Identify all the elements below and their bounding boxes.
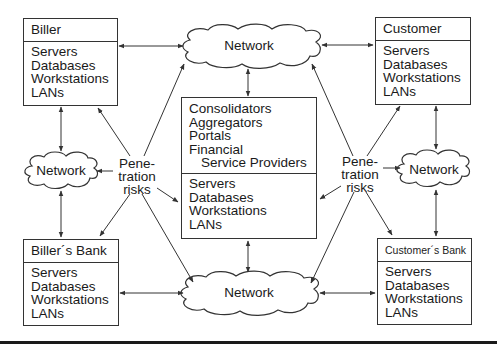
risk-right-to-customer xyxy=(367,106,400,156)
billers-bank-item: Databases xyxy=(31,280,118,294)
intermediaries-box: Consolidators Aggregators Portals Financ… xyxy=(181,97,317,239)
network-left-label: Network xyxy=(30,163,92,178)
biller-item: Servers xyxy=(31,45,117,59)
biller-item: Databases xyxy=(31,59,117,73)
risk-right-to-network-bottom xyxy=(311,192,354,283)
customers-bank-item: Servers xyxy=(385,265,471,279)
customers-bank-items: Servers Databases Workstations LANs xyxy=(378,262,471,319)
biller-item: LANs xyxy=(31,86,117,100)
network-bottom-label: Network xyxy=(218,285,280,300)
customer-item: LANs xyxy=(383,85,470,99)
network-top-label: Network xyxy=(218,38,280,53)
billers-bank-item: Workstations xyxy=(31,293,118,307)
customers-bank-box: Customer´s Bank Servers Databases Workst… xyxy=(377,238,472,325)
risk-left-to-billers-bank xyxy=(100,194,130,236)
role-item: Portals xyxy=(189,129,316,143)
biller-items: Servers Databases Workstations LANs xyxy=(24,42,117,99)
biller-title: Biller xyxy=(24,19,117,42)
intermediaries-roles: Consolidators Aggregators Portals Financ… xyxy=(182,98,316,174)
billers-bank-title: Biller´s Bank xyxy=(24,240,118,263)
customers-bank-item: Workstations xyxy=(385,292,471,306)
intermediaries-items: Servers Databases Workstations LANs xyxy=(182,174,316,231)
billers-bank-box: Biller´s Bank Servers Databases Workstat… xyxy=(23,239,119,326)
customer-item: Databases xyxy=(383,58,470,72)
network-right-label: Network xyxy=(403,162,465,177)
biller-item: Workstations xyxy=(31,72,117,86)
biller-box: Biller Servers Databases Workstations LA… xyxy=(23,18,118,106)
customers-bank-item: LANs xyxy=(385,306,471,320)
billers-bank-items: Servers Databases Workstations LANs xyxy=(24,263,118,320)
risk-left-to-biller xyxy=(98,108,130,156)
role-item: Aggregators xyxy=(189,116,316,130)
customer-box: Customer Servers Databases Workstations … xyxy=(375,17,471,105)
center-item: Databases xyxy=(189,191,316,205)
risk-right-to-network-top xyxy=(312,64,353,156)
customer-item: Servers xyxy=(383,44,470,58)
billers-bank-item: LANs xyxy=(31,307,118,321)
center-item: LANs xyxy=(189,218,316,232)
billers-bank-item: Servers xyxy=(31,266,118,280)
customer-items: Servers Databases Workstations LANs xyxy=(376,41,470,98)
customer-item: Workstations xyxy=(383,71,470,85)
center-item: Workstations xyxy=(189,204,316,218)
customers-bank-title: Customer´s Bank xyxy=(378,239,471,262)
bottom-rule xyxy=(0,341,497,344)
risk-label-line: risks xyxy=(330,181,390,194)
role-item: Financial xyxy=(189,143,316,157)
role-item: Service Providers xyxy=(189,156,316,170)
center-item: Servers xyxy=(189,177,316,191)
role-item: Consolidators xyxy=(189,102,316,116)
penetration-risks-right: Pene- tration risks xyxy=(330,155,390,194)
penetration-risks-left: Pene- tration risks xyxy=(107,157,167,196)
customer-title: Customer xyxy=(376,18,470,41)
risk-left-to-network-top xyxy=(144,64,184,156)
risk-right-to-customers-bank xyxy=(366,192,392,235)
risk-label-line: risks xyxy=(107,183,167,196)
customers-bank-item: Databases xyxy=(385,279,471,293)
